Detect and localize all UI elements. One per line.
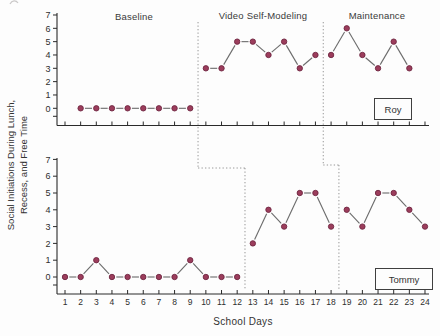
x-axis-tick-label: 24 <box>420 297 430 307</box>
x-axis-tick-label: 14 <box>264 297 274 307</box>
data-point-tommy-day-23 <box>407 207 412 212</box>
data-point-tommy-day-8 <box>172 274 177 279</box>
y-axis-tick-label: 7 <box>45 10 50 20</box>
data-point-roy-day-21 <box>375 66 380 71</box>
participant-label-box-roy: Roy <box>374 98 412 120</box>
data-point-tommy-day-3 <box>94 258 99 263</box>
y-axis-tick-label: 3 <box>45 222 50 232</box>
data-line-segment <box>366 58 375 66</box>
data-point-roy-day-12 <box>234 39 239 44</box>
data-point-tommy-day-16 <box>297 190 302 195</box>
participant-label-roy: Roy <box>385 104 402 115</box>
data-line-segment <box>271 213 281 224</box>
x-axis-tick-label: 6 <box>141 297 146 307</box>
data-point-tommy-day-9 <box>188 258 193 263</box>
data-point-roy-day-20 <box>360 52 365 57</box>
x-axis-tick-label: 7 <box>157 297 162 307</box>
participant-label-tommy: Tommy <box>389 274 420 285</box>
data-line-segment <box>364 197 376 223</box>
data-line-segment <box>397 196 407 207</box>
x-axis-tick-label: 23 <box>405 297 415 307</box>
data-point-roy-day-19 <box>344 26 349 31</box>
x-axis-tick-label: 15 <box>279 297 289 307</box>
data-line-segment <box>99 263 109 274</box>
data-line-segment <box>272 44 281 52</box>
data-point-tommy-day-2 <box>78 274 83 279</box>
data-point-tommy-day-10 <box>203 274 208 279</box>
y-axis-tick-label: 1 <box>45 255 50 265</box>
data-line-segment <box>317 197 329 223</box>
x-axis-tick-label: 8 <box>172 297 177 307</box>
data-point-tommy-day-5 <box>125 274 130 279</box>
data-line-segment <box>286 45 297 64</box>
y-axis-tick-label: 1 <box>45 90 50 100</box>
scan-artifact-mark <box>10 1 18 4</box>
data-line-segment <box>255 214 267 240</box>
data-point-roy-day-16 <box>297 66 302 71</box>
chart-canvas: 0123456701234567123456789101112131415161… <box>0 0 440 336</box>
data-line-segment <box>177 263 187 274</box>
data-point-roy-day-13 <box>250 39 255 44</box>
data-point-roy-day-4 <box>109 106 114 111</box>
data-line-segment <box>349 32 360 51</box>
y-axis-tick-label: 3 <box>45 64 50 74</box>
data-point-tommy-day-6 <box>141 274 146 279</box>
data-point-tommy-day-22 <box>391 190 396 195</box>
data-line-segment <box>286 197 298 223</box>
y-axis-tick-label: 6 <box>45 24 50 34</box>
data-point-roy-day-23 <box>407 66 412 71</box>
data-point-roy-day-9 <box>188 106 193 111</box>
y-axis-tick-label: 7 <box>45 155 50 165</box>
y-axis-tick-label: 0 <box>45 104 50 114</box>
data-line-segment <box>333 32 344 51</box>
data-point-roy-day-11 <box>219 66 224 71</box>
phase-label-maintenance: Maintenance <box>349 10 406 21</box>
data-point-roy-day-2 <box>78 106 83 111</box>
x-axis-tick-label: 3 <box>94 297 99 307</box>
data-line-segment <box>256 44 265 52</box>
data-point-roy-day-10 <box>203 66 208 71</box>
x-axis-tick-label: 16 <box>295 297 305 307</box>
x-axis-tick-label: 11 <box>217 297 226 307</box>
data-point-roy-day-7 <box>156 106 161 111</box>
data-point-roy-day-3 <box>94 106 99 111</box>
data-line-segment <box>193 263 203 274</box>
x-axis-tick-label: 9 <box>188 297 193 307</box>
y-axis-tick-label: 2 <box>45 239 50 249</box>
phase-label-video-self-modeling: Video Self-Modeling <box>219 10 308 21</box>
phase-label-baseline: Baseline <box>115 11 153 22</box>
data-line-segment <box>350 213 360 224</box>
data-point-roy-day-18 <box>328 52 333 57</box>
y-axis-tick-label: 6 <box>45 171 50 181</box>
data-point-tommy-day-19 <box>344 207 349 212</box>
data-point-tommy-day-11 <box>219 274 224 279</box>
data-point-tommy-day-18 <box>328 224 333 229</box>
data-line-segment <box>303 58 312 66</box>
y-axis-tick-label: 4 <box>45 205 50 215</box>
x-axis-tick-label: 12 <box>232 297 242 307</box>
x-axis-tick-label: 22 <box>389 297 399 307</box>
data-point-roy-day-6 <box>141 106 146 111</box>
data-point-tommy-day-20 <box>360 224 365 229</box>
data-point-tommy-day-24 <box>422 224 427 229</box>
data-point-roy-day-15 <box>281 39 286 44</box>
data-line-segment <box>396 45 407 64</box>
x-axis-tick-label: 17 <box>311 297 321 307</box>
x-axis-tick-label: 5 <box>125 297 130 307</box>
x-axis-tick-label: 4 <box>110 297 115 307</box>
x-axis-tick-label: 21 <box>373 297 383 307</box>
y-axis-title: Social Initiations During Lunch, Recess,… <box>4 35 30 295</box>
x-axis-tick-label: 19 <box>342 297 352 307</box>
y-axis-tick-label: 4 <box>45 50 50 60</box>
data-point-tommy-day-7 <box>156 274 161 279</box>
data-line-segment <box>224 45 235 64</box>
x-axis-tick-label: 20 <box>358 297 368 307</box>
multiple-baseline-chart-figure: 0123456701234567123456789101112131415161… <box>0 0 440 336</box>
participant-label-box-tommy: Tommy <box>375 268 433 290</box>
x-axis-title: School Days <box>213 316 272 327</box>
data-point-tommy-day-4 <box>109 274 114 279</box>
data-point-roy-day-14 <box>266 52 271 57</box>
y-axis-tick-label: 0 <box>45 272 50 282</box>
y-axis-title-line2: Recess, and Free Time <box>17 35 30 295</box>
x-axis-tick-label: 10 <box>201 297 211 307</box>
